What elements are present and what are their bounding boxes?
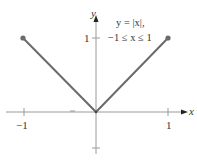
left-endpoint-dot [20,35,25,40]
right-endpoint-dot [165,35,170,40]
x-tick-label-neg1: −1 [16,119,28,131]
y-tick-label-1: 1 [84,32,90,44]
chart: y x 1 −1 1 y = |x|, −1 ≤ x ≤ 1 [0,0,197,162]
y-axis-label: y [90,7,96,19]
annotation-line-2: −1 ≤ x ≤ 1 [108,32,152,43]
annotation-line-1: y = |x|, [116,17,145,28]
x-axis-label: x [188,105,194,117]
x-axis-arrow-icon [181,110,188,115]
x-tick-label-1: 1 [166,119,172,131]
origin-dot [95,111,97,113]
